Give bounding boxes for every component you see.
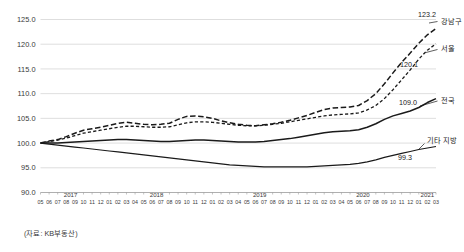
x-axis-month-label: 09 (381, 199, 387, 205)
series-lines-group (41, 28, 437, 166)
y-axis-tick-label: 90.0 (21, 188, 35, 197)
x-axis-month-label: 07 (158, 199, 164, 205)
y-axis-labels-group: 125.0120.0115.0110.0105.0100.095.090.0 (17, 15, 36, 197)
x-axis-month-label: 10 (287, 199, 293, 205)
x-axis-month-label: 05 (38, 199, 44, 205)
x-axis-month-label: 02 (424, 199, 430, 205)
x-axis-month-label: 09 (175, 199, 181, 205)
x-axis-month-label: 12 (201, 199, 207, 205)
gridlines-group (41, 20, 437, 193)
series-end-value: 123.2 (418, 10, 436, 19)
x-axis-month-label: 02 (321, 199, 327, 205)
x-axis-month-label: 05 (141, 199, 147, 205)
x-axis-month-label: 10 (81, 199, 87, 205)
x-axis-year-label: 2017 (64, 191, 78, 198)
x-axis-month-label: 03 (227, 199, 233, 205)
x-axis-month-label: 07 (364, 199, 370, 205)
x-axis-month-label: 06 (356, 199, 362, 205)
y-axis-tick-label: 115.0 (18, 65, 36, 74)
x-axis-month-label: 09 (278, 199, 284, 205)
x-axis-month-label: 03 (124, 199, 130, 205)
x-axis-month-label: 03 (433, 199, 439, 205)
series-line (41, 143, 437, 167)
x-axis-year-label: 2020 (356, 191, 370, 198)
series-end-value: 120.1 (400, 60, 418, 69)
x-axis-month-label: 02 (218, 199, 224, 205)
source-note: (자료: KB부동산) (24, 229, 78, 238)
y-axis-tick-label: 105.0 (17, 114, 36, 123)
y-axis-tick-label: 125.0 (17, 15, 36, 24)
x-axis-month-label: 06 (252, 199, 258, 205)
x-axis-month-label: 11 (399, 199, 405, 205)
x-axis-month-label: 06 (149, 199, 155, 205)
x-axis-month-label: 07 (261, 199, 267, 205)
x-axis-month-label: 01 (210, 199, 216, 205)
x-axis-month-label: 07 (55, 199, 61, 205)
x-axis-month-label: 01 (106, 199, 112, 205)
x-axis-month-label: 01 (313, 199, 319, 205)
chart-container: 125.0120.0115.0110.0105.0100.095.090.0 0… (0, 0, 464, 252)
x-axis-month-label: 04 (338, 199, 344, 205)
x-axis-year-labels-group: 20172018201920202021 (64, 191, 435, 198)
x-axis-month-label: 08 (63, 199, 69, 205)
series-end-label: 서울 (441, 44, 455, 53)
series-end-label: 강남구 (441, 17, 462, 26)
x-axis-month-label: 08 (373, 199, 379, 205)
x-axis-month-label: 11 (296, 199, 302, 205)
x-axis-year-label: 2019 (253, 191, 267, 198)
x-axis-month-label: 04 (132, 199, 138, 205)
x-axis-month-label: 06 (46, 199, 52, 205)
y-axis-tick-label: 110.0 (18, 89, 36, 98)
y-axis-tick-label: 120.0 (17, 40, 36, 49)
x-axis-month-label: 09 (72, 199, 78, 205)
x-axis-year-label: 2018 (150, 191, 164, 198)
x-axis-month-label: 12 (407, 199, 413, 205)
x-axis-month-label: 10 (390, 199, 396, 205)
x-axis-month-label: 05 (244, 199, 250, 205)
x-axis-month-label: 02 (115, 199, 121, 205)
x-axis-month-label: 08 (270, 199, 276, 205)
x-axis-month-label: 11 (89, 199, 95, 205)
x-axis-year-label: 2021 (421, 191, 435, 198)
series-end-label: 전국 (441, 96, 455, 105)
x-axis-month-label: 12 (304, 199, 310, 205)
line-chart: 125.0120.0115.0110.0105.0100.095.090.0 0… (0, 0, 464, 252)
series-leader-line (429, 22, 438, 24)
series-end-label: 기타 지방 (427, 136, 457, 145)
x-axis-month-label: 08 (167, 199, 173, 205)
y-axis-tick-label: 95.0 (21, 163, 35, 172)
x-axis-month-label: 10 (184, 199, 190, 205)
series-end-labels-group: 강남구123.2서울120.1전국109.0기타 지방99.3 (398, 10, 462, 162)
series-end-value: 109.0 (399, 98, 417, 107)
x-axis-month-label: 05 (347, 199, 353, 205)
x-axis-month-label: 04 (235, 199, 241, 205)
x-axis-month-label: 03 (330, 199, 336, 205)
x-axis-month-label: 12 (98, 199, 104, 205)
x-axis-month-label: 11 (193, 199, 199, 205)
x-axis-month-labels-group: 0506070809101112010203040506070809101112… (38, 199, 439, 205)
series-end-value: 99.3 (398, 153, 412, 162)
y-axis-tick-label: 100.0 (17, 139, 36, 148)
x-axis-month-label: 01 (416, 199, 422, 205)
